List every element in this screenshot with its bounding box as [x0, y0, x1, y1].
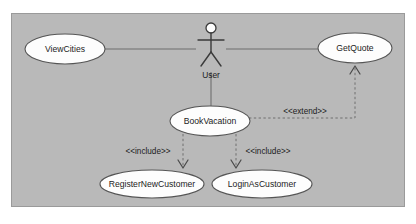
use-case-register-new-customer-label: RegisterNewCustomer [109, 179, 196, 189]
stereotype-label-extend-getquote: <<extend>> [283, 107, 327, 116]
use-case-register-new-customer[interactable]: RegisterNewCustomer [100, 170, 204, 198]
stereotype-label-include-loginascustomer: <<include>> [245, 147, 290, 156]
use-case-get-quote[interactable]: GetQuote [318, 33, 392, 63]
use-case-login-as-customer-label: LoginAsCustomer [228, 179, 296, 189]
use-case-book-vacation[interactable]: BookVacation [170, 106, 250, 136]
stereotype-label-include-registernewcustomer: <<include>> [125, 147, 170, 156]
use-case-view-cities[interactable]: ViewCities [25, 34, 105, 64]
use-case-get-quote-label: GetQuote [336, 43, 373, 53]
use-case-book-vacation-label: BookVacation [184, 116, 237, 126]
actor-head-icon [206, 23, 216, 33]
use-case-view-cities-label: ViewCities [45, 44, 85, 54]
use-case-login-as-customer[interactable]: LoginAsCustomer [212, 170, 312, 198]
use-case-diagram: User ViewCities GetQuote BookVacation Re… [0, 0, 416, 224]
diagram-canvas: User ViewCities GetQuote BookVacation Re… [0, 0, 416, 224]
actor-user-label: User [202, 70, 220, 80]
